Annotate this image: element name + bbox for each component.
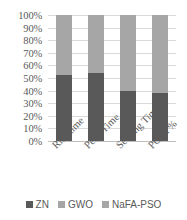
y-axis-tick-label: 20% (23, 110, 42, 121)
y-axis-tick-label: 100% (18, 10, 42, 21)
stacked-bar-chart: 100%90%80%70%60%50%40%30%20%10%0% Rise t… (0, 0, 187, 220)
legend-label: GWO (68, 199, 93, 210)
chart-legend: ZNGWONaFA-PSO (0, 199, 187, 210)
legend-item[interactable]: GWO (58, 199, 93, 210)
legend-swatch-icon (58, 201, 65, 208)
y-axis-tick-label: 50% (23, 73, 42, 84)
legend-swatch-icon (26, 201, 33, 208)
y-axis-tick-label: 90% (23, 22, 42, 33)
bar-segment (152, 15, 168, 54)
bar-segment (56, 45, 72, 75)
y-axis-tick-label: 80% (23, 35, 42, 46)
bar-segment (88, 15, 104, 44)
y-axis-tick-label: 30% (23, 98, 42, 109)
y-axis-tick-label: 10% (23, 123, 42, 134)
bar-segment (120, 15, 136, 53)
legend-label: NaFA-PSO (112, 199, 161, 210)
x-axis: Rise timePeak TimeSettling TimePO in % (0, 143, 187, 193)
y-axis-tick-label: 60% (23, 60, 42, 71)
bar-segment (88, 44, 104, 73)
legend-item[interactable]: ZN (26, 199, 49, 210)
legend-swatch-icon (102, 201, 109, 208)
legend-item[interactable]: NaFA-PSO (102, 199, 161, 210)
bar-segment (56, 15, 72, 45)
bar-segment (152, 54, 168, 93)
legend-label: ZN (36, 199, 49, 210)
y-axis-tick-label: 70% (23, 47, 42, 58)
bar-segment (120, 53, 136, 91)
y-axis-tick-label: 40% (23, 85, 42, 96)
